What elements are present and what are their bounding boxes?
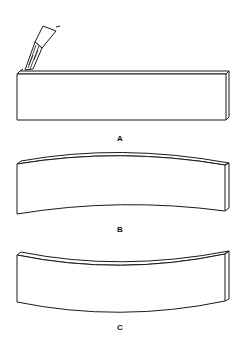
panel-label-a: A	[117, 134, 123, 143]
diagram-canvas	[0, 0, 242, 344]
bar-a	[17, 71, 229, 120]
panel-label-b: B	[117, 225, 123, 234]
panel-label-c: C	[117, 323, 123, 332]
bar-b	[17, 152, 229, 214]
torch-icon	[20, 26, 60, 71]
bar-c	[17, 251, 229, 312]
